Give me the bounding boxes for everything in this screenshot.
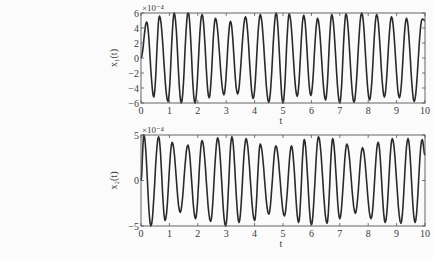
x1-curve — [141, 13, 425, 103]
x2-x-ticks: 012345678910 — [139, 135, 431, 239]
y-tick-label: 6 — [134, 8, 139, 19]
x-tick-label: 10 — [420, 228, 430, 239]
x-tick-label: 7 — [337, 228, 342, 239]
y-tick-label: 5 — [134, 130, 139, 141]
x-tick-label: 3 — [224, 228, 229, 239]
x1-exponent-label: ×10⁻⁴ — [142, 3, 164, 13]
subplot-x1: 012345678910 −6−4−20246 ×10⁻⁴ t x₁(t) — [108, 3, 430, 126]
x-tick-label: 4 — [252, 228, 257, 239]
x2-exponent-label: ×10⁻⁴ — [142, 125, 164, 135]
x-tick-label: 9 — [394, 105, 399, 116]
y-tick-label: 4 — [134, 23, 139, 34]
y-tick-label: −6 — [128, 98, 139, 109]
x2-y-axis-label: x₂(t) — [108, 172, 120, 190]
x-tick-label: 6 — [309, 228, 314, 239]
figure-canvas: 012345678910 −6−4−20246 ×10⁻⁴ t x₁(t) 01… — [0, 0, 433, 261]
x-tick-label: 9 — [394, 228, 399, 239]
x-tick-label: 2 — [195, 105, 200, 116]
x-tick-label: 3 — [224, 105, 229, 116]
y-tick-label: −4 — [128, 83, 139, 94]
y-tick-label: −5 — [128, 221, 139, 232]
y-tick-label: −2 — [128, 68, 139, 79]
x-tick-label: 4 — [252, 105, 257, 116]
x-tick-label: 8 — [366, 228, 371, 239]
y-tick-label: 0 — [134, 53, 139, 64]
x2-curve — [141, 135, 425, 226]
x-tick-label: 1 — [167, 228, 172, 239]
x-tick-label: 6 — [309, 105, 314, 116]
y-tick-label: 2 — [134, 38, 139, 49]
figure-page: 012345678910 −6−4−20246 ×10⁻⁴ t x₁(t) 01… — [0, 0, 433, 261]
x2-x-axis-label: t — [280, 238, 283, 249]
x-tick-label: 7 — [337, 105, 342, 116]
subplot-x2: 012345678910 −505 ×10⁻⁴ t x₂(t) — [108, 125, 430, 249]
x-tick-label: 1 — [167, 105, 172, 116]
y-tick-label: 0 — [134, 175, 139, 186]
x-tick-label: 2 — [195, 228, 200, 239]
x1-x-axis-label: t — [280, 115, 283, 126]
x-tick-label: 10 — [420, 105, 430, 116]
x-tick-label: 0 — [139, 105, 144, 116]
x1-y-axis-label: x₁(t) — [108, 49, 120, 67]
x-tick-label: 8 — [366, 105, 371, 116]
x-tick-label: 0 — [139, 228, 144, 239]
